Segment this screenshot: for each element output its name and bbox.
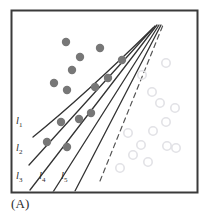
plot-frame [12, 11, 198, 193]
data-point-filled-class [50, 79, 58, 87]
figure-caption: (A) [11, 196, 30, 212]
data-point-filled-class [63, 86, 71, 94]
frame-rect [12, 11, 198, 193]
data-point-filled-class [75, 115, 83, 123]
data-point-filled-class [62, 38, 70, 46]
data-point-filled-class [87, 109, 95, 117]
data-point-filled-class [43, 138, 51, 146]
data-point-filled-class [104, 74, 112, 82]
data-point-filled-class [57, 118, 65, 126]
data-point-filled-class [68, 66, 76, 74]
data-point-filled-class [96, 44, 104, 52]
data-point-filled-class [91, 83, 99, 91]
figure-panel-a: l1l2l3l4l5 (A) [0, 0, 211, 218]
scatter-plot-svg: l1l2l3l4l5 [0, 0, 211, 218]
data-point-filled-class [76, 53, 84, 61]
data-point-filled-class [118, 56, 126, 64]
data-point-filled-class [63, 143, 71, 151]
